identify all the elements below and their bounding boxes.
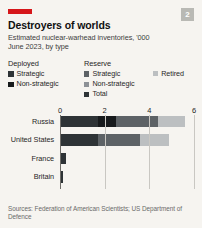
- stacked-bar: [60, 153, 194, 165]
- legend-swatch-icon: [84, 92, 90, 98]
- chart-number-badge: 2: [181, 8, 194, 21]
- chart-subtitle-line2: June 2023, by type: [8, 42, 194, 51]
- stacked-bar: [60, 171, 194, 183]
- legend-label: Retired: [161, 70, 184, 78]
- x-axis-tick-label: 0: [58, 106, 62, 115]
- legend-swatch-icon: [8, 82, 14, 88]
- brand-rule: [8, 9, 32, 14]
- category-label-russia: Russia: [32, 117, 60, 127]
- plot-area: RussiaUnited StatesFranceBritain: [60, 115, 194, 189]
- legend-label: Total: [92, 90, 107, 98]
- bar-segment: [60, 134, 98, 146]
- legend-swatch-icon: [84, 71, 90, 77]
- legend-group-retired: Retired: [153, 59, 184, 101]
- gridline: [105, 115, 106, 189]
- bar-row: United States: [60, 134, 194, 146]
- bar-row: Britain: [60, 171, 194, 183]
- bar-segment: [60, 116, 98, 128]
- legend-label: Non-strategic: [17, 80, 59, 88]
- legend-label: Non-strategic: [92, 80, 134, 88]
- legend-heading-reserve: Reserve: [84, 59, 143, 68]
- legend-group-reserve: Reserve Strategic Non-strategic Total: [84, 59, 143, 101]
- category-label-united-states: United States: [11, 135, 60, 145]
- legend-heading-deployed: Deployed: [8, 59, 74, 68]
- legend-item-deployed-strategic: Strategic: [8, 70, 74, 78]
- sources-note: Sources: Federation of American Scientis…: [8, 205, 194, 221]
- legend-label: Strategic: [17, 70, 45, 78]
- legend-item-reserve-non-strategic: Non-strategic: [84, 80, 143, 88]
- category-label-britain: Britain: [34, 172, 60, 182]
- legend: Deployed Strategic Non-strategic Reserve…: [8, 59, 194, 101]
- x-axis-tick-label: 2: [103, 106, 107, 115]
- bar-row: France: [60, 153, 194, 165]
- legend-swatch-icon: [8, 71, 14, 77]
- bar-segment: [98, 116, 116, 128]
- page-title: Destroyers of worlds: [8, 19, 194, 31]
- x-axis-tick-label: 4: [147, 106, 151, 115]
- legend-swatch-icon: [84, 82, 90, 88]
- bar-segment: [158, 116, 185, 128]
- x-axis-tick-label: 6: [192, 106, 196, 115]
- chart-subtitle-line1: Estimated nuclear-warhead inventories, '…: [8, 33, 194, 42]
- legend-group-deployed: Deployed Strategic Non-strategic: [8, 59, 74, 101]
- bar-segment: [116, 116, 158, 128]
- stacked-bar: [60, 134, 194, 146]
- bar-chart: 0246 RussiaUnited StatesFranceBritain: [8, 106, 194, 191]
- gridline: [60, 115, 61, 189]
- legend-item-retired: Retired: [153, 70, 184, 78]
- legend-swatch-icon: [153, 71, 159, 77]
- gridline: [149, 115, 150, 189]
- stacked-bar: [60, 116, 194, 128]
- bar-row: Russia: [60, 116, 194, 128]
- legend-item-reserve-strategic: Strategic: [84, 70, 143, 78]
- x-axis: 0246: [60, 106, 194, 115]
- gridline: [194, 115, 195, 189]
- legend-item-reserve-total: Total: [84, 90, 143, 98]
- bar-rows: RussiaUnited StatesFranceBritain: [60, 115, 194, 189]
- legend-label: Strategic: [92, 70, 120, 78]
- legend-item-deployed-non-strategic: Non-strategic: [8, 80, 74, 88]
- chart-card: 2 Destroyers of worlds Estimated nuclear…: [0, 0, 202, 228]
- bar-segment: [140, 134, 169, 146]
- category-label-france: France: [32, 154, 60, 164]
